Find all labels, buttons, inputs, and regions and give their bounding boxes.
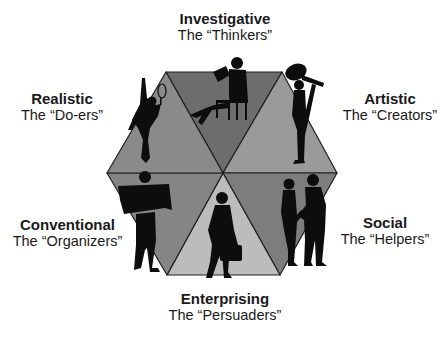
realistic-title: Realistic: [12, 90, 112, 107]
artistic-subtitle: The “Creators”: [340, 107, 440, 124]
enterprising-title: Enterprising: [160, 290, 290, 307]
label-conventional: Conventional The “Organizers”: [0, 216, 135, 250]
label-investigative: Investigative The “Thinkers”: [160, 10, 290, 44]
label-enterprising: Enterprising The “Persuaders”: [160, 290, 290, 324]
investigative-title: Investigative: [160, 10, 290, 27]
conventional-subtitle: The “Organizers”: [0, 233, 135, 250]
label-realistic: Realistic The “Do-ers”: [12, 90, 112, 124]
social-title: Social: [330, 214, 440, 231]
realistic-subtitle: The “Do-ers”: [12, 107, 112, 124]
social-subtitle: The “Helpers”: [330, 231, 440, 248]
investigative-subtitle: The “Thinkers”: [160, 27, 290, 44]
label-artistic: Artistic The “Creators”: [340, 90, 440, 124]
artistic-title: Artistic: [340, 90, 440, 107]
enterprising-subtitle: The “Persuaders”: [160, 307, 290, 324]
conventional-title: Conventional: [0, 216, 135, 233]
label-social: Social The “Helpers”: [330, 214, 440, 248]
